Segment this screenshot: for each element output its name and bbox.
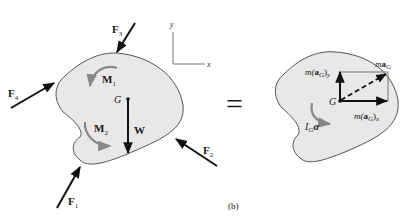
- x-axis-label: x: [206, 60, 211, 69]
- figure-caption: (b): [228, 201, 239, 211]
- weight-label: W: [134, 124, 145, 136]
- force-label-f3: F3: [112, 23, 123, 38]
- y-axis-label: y: [169, 20, 174, 29]
- center-of-mass-label-left: G: [114, 94, 121, 105]
- force-label-f1: F1: [68, 195, 79, 210]
- force-label-f4: F4: [8, 87, 19, 102]
- kinetics-diagram: F3 F4 F2 F1 M1 M2 G W y x = m(aG)y: [0, 0, 408, 224]
- rigid-body-shape-left: [56, 53, 183, 164]
- equals-sign: =: [226, 87, 243, 120]
- center-of-mass-label-right: G: [329, 96, 336, 107]
- center-of-mass-dot-right: [338, 99, 342, 103]
